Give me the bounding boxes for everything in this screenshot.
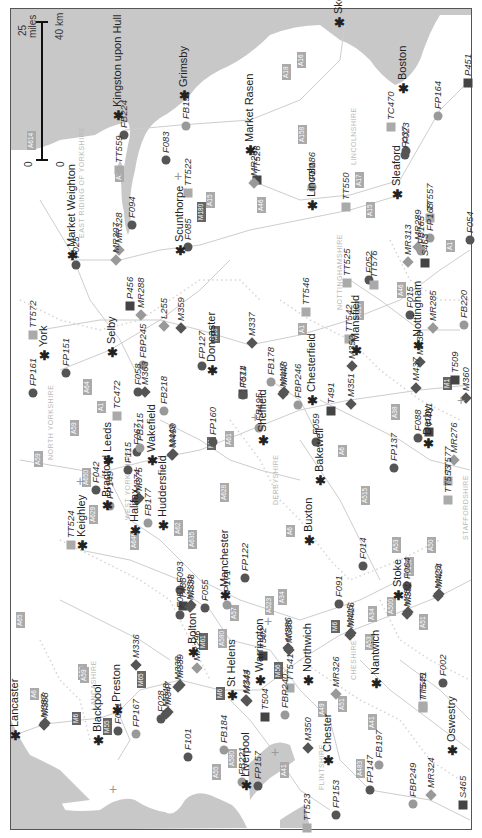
road-shield: A38 [391,404,400,420]
asterisk-icon: ✱ [188,646,199,659]
site-label: FP164 [433,81,443,109]
square-icon [464,79,473,88]
circle-icon [144,519,153,528]
road-shield: A15 [366,202,375,218]
site-label: MR324 [426,757,436,788]
scale-km-label: 40 km [55,13,65,40]
circle-icon [390,464,399,473]
asterisk-icon: ✱ [207,364,218,377]
circle-icon [439,679,448,688]
circle-icon [359,562,368,571]
asterisk-icon: ✱ [392,188,403,201]
site-label: FBP246 [293,364,303,398]
site-label: TT523 [302,794,312,821]
square-icon [342,203,351,212]
circle-icon [241,574,250,583]
road-shield: A34 [278,589,287,605]
circle-icon [239,391,248,400]
road-shield: A51 [338,696,347,712]
scale-zero-miles: 0 [24,161,34,167]
town-label: Bradford [101,455,112,497]
town-label: Mansfield [350,295,361,342]
road-shield: M6 [216,687,225,700]
asterisk-icon: ✱ [179,89,190,102]
town-label: Selby [106,316,117,344]
town-label: Lancaster [9,679,20,727]
town-label: Sleaford [391,145,402,186]
site-label: M387 [39,694,49,718]
town-label: Buxton [303,498,314,532]
asterisk-icon: ✱ [323,754,334,767]
site-label: MR326 [331,656,341,687]
asterisk-icon: ✱ [107,346,118,359]
asterisk-icon: ✱ [93,734,104,747]
square-icon [459,801,468,810]
circle-icon [62,369,71,378]
town-label: Market Rasen [244,74,255,142]
town-label: Bolton [187,613,198,644]
circle-icon [201,604,210,613]
town-label: Nantwich [370,630,381,675]
town-label: Boston [397,46,408,80]
road-shield: A59 [34,451,43,467]
circle-icon [162,156,171,165]
square-icon [302,308,311,317]
map-canvas[interactable]: 25 miles 40 km 0 0 North YorkshireEast R… [0,0,482,838]
road-shield: M6 [72,712,81,725]
cross-icon: + [457,393,465,407]
asterisk-icon: ✱ [67,249,78,262]
site-label: TT525 [342,249,352,276]
site-label: M338 [173,656,183,680]
asterisk-icon: ✱ [398,82,409,95]
cross-icon: + [271,745,279,759]
square-icon [444,496,453,505]
site-label: F064 [402,557,412,579]
road-shield: A15 [206,192,215,208]
circle-icon [434,112,443,121]
road-shield: A51 [419,614,428,630]
site-label: F101 [183,728,193,750]
site-label: FBP249 [408,763,418,797]
town-label: Keighley [76,495,87,537]
circle-icon [294,401,303,410]
site-label: FP151 [61,338,71,366]
road-shield: A61 [225,431,234,447]
road-shield: A16 [297,52,306,68]
site-label: M449 [167,424,177,448]
road-shield: A629 [89,505,98,524]
circle-icon [375,761,384,770]
town-label: Liverpool [240,732,251,777]
site-label: F083 [161,131,171,153]
road-shield: A65 [16,612,25,628]
circle-icon [176,611,185,620]
circle-icon [335,600,344,609]
square-icon [419,704,428,713]
road-shield: A1 [97,401,106,413]
asterisk-icon: ✱ [258,434,269,447]
circle-icon [220,746,229,755]
site-label: MR285 [428,290,438,321]
town-label: St Helens [226,639,237,687]
site-label: M351 [346,373,356,397]
road-shield: A6 [286,525,295,537]
county-label: East Riding of Yorkshire [78,127,85,238]
site-label: T491 [326,382,336,404]
site-label: M363 [140,361,150,385]
site-label: FB215 [135,413,145,441]
county-label: Cheshire [350,640,357,680]
square-icon [421,259,430,268]
asterisk-icon: ✱ [241,779,252,792]
square-icon [451,376,460,385]
road-shield: A41 [368,714,377,730]
circle-icon [466,236,475,245]
road-shield: A635 [188,530,197,549]
asterisk-icon: ✱ [227,689,238,702]
site-label: M447 [278,363,288,387]
site-label: FP137 [389,433,399,461]
asterisk-icon: ✱ [245,144,256,157]
site-label: FP122 [240,543,250,571]
town-label: Stoke [392,559,403,587]
square-icon [370,281,379,290]
square-icon [327,407,336,416]
town-label: Kingston upon Hull [112,15,123,107]
